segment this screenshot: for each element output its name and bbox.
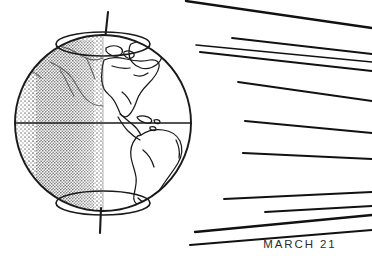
illustration-canvas: MARCH 21 [0, 0, 372, 271]
date-caption: MARCH 21 [263, 238, 336, 250]
rotation-axis-lower [100, 208, 101, 233]
equinox-illustration: MARCH 21 [0, 0, 372, 271]
